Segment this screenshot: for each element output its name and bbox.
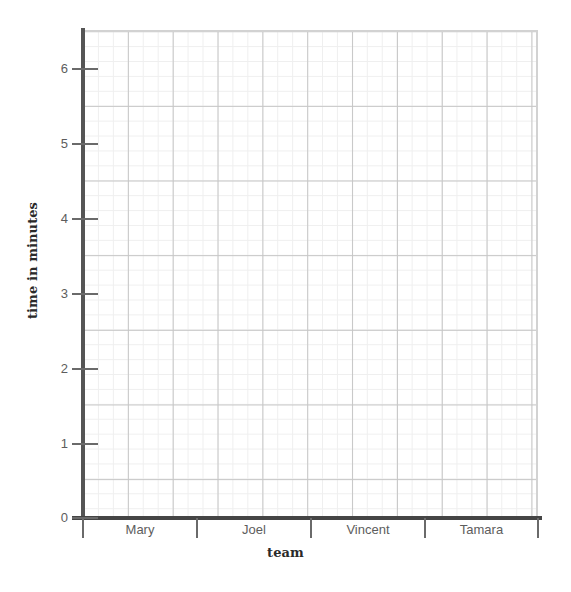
x-axis-title: team xyxy=(0,545,571,560)
y-tick-label-5: 5 xyxy=(50,137,68,150)
y-tick-mark-3 xyxy=(72,293,98,295)
x-tick-label-joel: Joel xyxy=(197,523,311,536)
y-tick-mark-1 xyxy=(72,443,98,445)
y-axis-title: time in minutes xyxy=(25,201,40,321)
plot-area xyxy=(83,30,538,518)
major-gridlines xyxy=(83,30,538,518)
x-axis-spine xyxy=(72,516,542,520)
y-tick-label-6: 6 xyxy=(50,62,68,75)
y-tick-label-1: 1 xyxy=(50,437,68,450)
y-axis-spine xyxy=(81,28,85,520)
y-tick-label-4: 4 xyxy=(50,212,68,225)
bar-chart-figure: 6 5 4 3 2 1 0 Mary Joel Vincent Tamara t… xyxy=(0,0,571,592)
y-tick-mark-0 xyxy=(72,517,98,519)
y-tick-label-0: 0 xyxy=(50,511,68,524)
y-tick-mark-4 xyxy=(72,218,98,220)
y-tick-mark-2 xyxy=(72,368,98,370)
x-tick-label-mary: Mary xyxy=(83,523,197,536)
x-tick-label-vincent: Vincent xyxy=(311,523,425,536)
y-tick-mark-6 xyxy=(72,68,98,70)
x-tick-label-tamara: Tamara xyxy=(425,523,538,536)
y-tick-label-3: 3 xyxy=(50,287,68,300)
y-tick-mark-5 xyxy=(72,143,98,145)
y-tick-label-2: 2 xyxy=(50,362,68,375)
